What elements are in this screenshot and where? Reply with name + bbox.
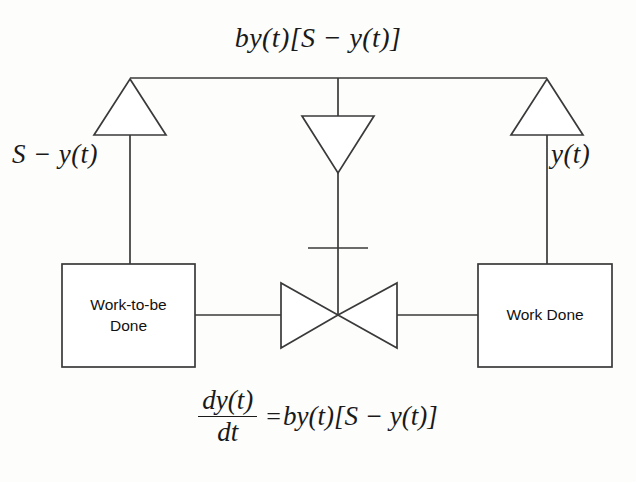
stock-label-line-2: Done xyxy=(90,316,166,336)
equals-sign: = xyxy=(264,402,283,431)
derivative-fraction: dy(t) dt xyxy=(198,386,257,447)
fraction-denominator: dt xyxy=(213,417,242,447)
fraction-numerator: dy(t) xyxy=(198,386,257,416)
flow-valve-right-half-icon xyxy=(338,283,397,348)
right-converter-triangle-up-icon xyxy=(511,79,583,135)
flow-rate-equation-text: by(t)[S − y(t)] xyxy=(235,22,401,53)
equation-right-hand-side: =by(t)[S − y(t)] xyxy=(264,401,437,432)
stock-label-line-1: Work Done xyxy=(506,305,583,325)
flow-valve-left-half-icon xyxy=(281,283,338,348)
differential-equation: dy(t) dt =by(t)[S − y(t)] xyxy=(0,386,636,447)
diagram-canvas: by(t)[S − y(t)] S − y(t) y(t) Work-to-be… xyxy=(0,0,636,482)
left-converter-triangle-up-icon xyxy=(94,79,166,135)
rhs-expression: by(t)[S − y(t)] xyxy=(283,401,438,431)
right-converter-label: y(t) xyxy=(551,139,590,170)
left-converter-label: S − y(t) xyxy=(12,139,98,170)
center-converter-triangle-down-icon xyxy=(302,116,374,173)
stock-label-line-1: Work-to-be xyxy=(90,295,166,315)
stock-label-work-to-be-done: Work-to-be Done xyxy=(62,264,195,367)
flow-rate-equation: by(t)[S − y(t)] xyxy=(0,22,636,54)
stock-label-work-done: Work Done xyxy=(478,264,612,367)
